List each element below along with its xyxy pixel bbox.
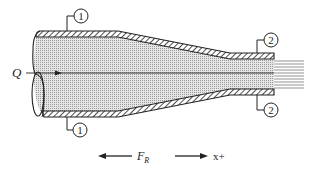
section-1-bottom-marker: 1 — [67, 117, 87, 137]
fluid-region — [34, 37, 304, 111]
flow-rate-label: Q — [12, 65, 22, 80]
positive-direction-label: x+ — [213, 150, 225, 162]
svg-text:2: 2 — [268, 34, 274, 46]
reaction-force-label: FR — [136, 149, 149, 165]
section-2-top-marker: 2 — [257, 33, 278, 53]
nozzle-diagram: Q 1 1 2 2 FR x+ — [0, 0, 314, 172]
positive-x-arrow-icon — [175, 153, 208, 159]
exit-jet — [274, 61, 304, 88]
reaction-force-arrow-icon — [98, 153, 132, 159]
svg-text:1: 1 — [77, 124, 83, 136]
svg-text:1: 1 — [78, 10, 84, 22]
section-1-top-marker: 1 — [67, 9, 88, 31]
section-2-bottom-marker: 2 — [257, 95, 278, 117]
svg-text:2: 2 — [268, 104, 274, 116]
